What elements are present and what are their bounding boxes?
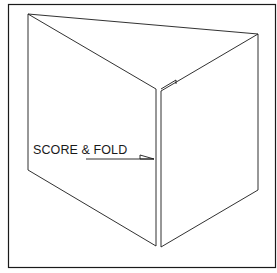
right-panel-bottom-edge — [161, 190, 258, 247]
outer-frame — [9, 5, 276, 268]
left-panel-bottom-edge — [28, 170, 156, 246]
fold-tab — [161, 80, 176, 89]
top-back-edge — [28, 14, 258, 34]
folded-card-diagram — [0, 0, 277, 273]
top-left-edge — [28, 14, 156, 89]
score-fold-label: SCORE & FOLD — [33, 143, 127, 157]
arrow-icon — [140, 155, 154, 159]
